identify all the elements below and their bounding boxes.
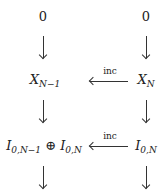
i-subscript: 0,N: [140, 145, 156, 155]
inc-arrow-2: [90, 146, 128, 147]
node-i-0-n: I0,N: [135, 139, 157, 155]
node-i-direct-sum: I0,N−1 ⊕ I0,N: [6, 139, 82, 155]
node-x-n: XN: [137, 73, 154, 89]
direct-sum-symbol: ⊕: [45, 138, 56, 153]
down-arrow-left-2: [43, 100, 44, 122]
node-x-n-minus-1: XN−1: [30, 73, 60, 89]
x-symbol: X: [30, 72, 39, 87]
node-top-right-zero: 0: [142, 10, 150, 23]
down-arrow-right-3: [146, 166, 147, 188]
inc-label-2: inc: [103, 131, 117, 141]
x-subscript: N−1: [39, 79, 60, 89]
x-symbol: X: [137, 72, 146, 87]
i-subscript: 0,N: [65, 145, 81, 155]
i-subscript: 0,N−1: [11, 145, 41, 155]
inc-label-1: inc: [103, 66, 117, 76]
x-subscript: N: [147, 79, 155, 89]
inc-arrow-1: [90, 81, 128, 82]
down-arrow-right-2: [146, 100, 147, 122]
node-top-left-zero: 0: [39, 10, 47, 23]
down-arrow-left-1: [43, 36, 44, 58]
down-arrow-left-3: [43, 166, 44, 188]
down-arrow-right-1: [146, 36, 147, 58]
